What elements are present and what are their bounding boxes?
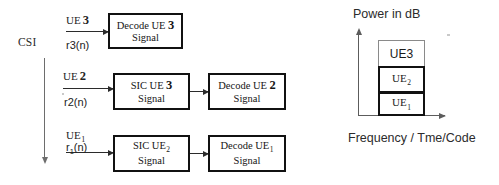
input-label-ue1-text: UE: [66, 129, 81, 141]
chart-x-axis-label: Frequency / Tme/Code: [348, 132, 476, 145]
bar-segment-ue2-label: UE2: [392, 72, 411, 87]
input-label-ue3-text: UE: [66, 14, 81, 26]
csi-downward-arrow: [44, 58, 45, 162]
signal-label-r3n: r3(n): [66, 40, 89, 51]
input-label-ue2-index: 2: [78, 69, 86, 83]
input-label-ue3-index: 3: [81, 13, 89, 27]
block-decode-ue2-line2: Signal: [234, 93, 261, 105]
csi-label: CSI: [18, 37, 37, 49]
signal-label-r2n: r2(n): [64, 97, 87, 108]
signal-label-r1n: r1(n): [66, 142, 87, 156]
block-decode-ue1-line2: Signal: [234, 155, 261, 167]
block-sic-ue3-line2: Signal: [138, 93, 165, 105]
input-label-ue2: UE2: [63, 70, 86, 83]
block-decode-ue3: Decode UE3 Signal: [108, 13, 183, 49]
chart-title: Power in dB: [353, 8, 420, 21]
block-decode-ue3-line1: Decode UE3: [117, 18, 174, 32]
bar-segment-ue2: UE2: [378, 66, 425, 93]
figure-canvas: CSI UE3 r3(n) Decode UE3 Signal UE2 r2(n…: [0, 0, 499, 185]
block-decode-ue1-line1: Decode UE1: [221, 140, 274, 155]
block-sic-ue3: SIC UE3 Signal: [113, 73, 190, 110]
block-sic-ue2-line1: SIC UE2: [133, 140, 170, 155]
block-decode-ue3-line2: Signal: [132, 32, 159, 44]
bar-segment-ue1: UE1: [378, 92, 425, 116]
block-sic-ue2: SIC UE2 Signal: [113, 135, 190, 172]
chart-y-axis: [358, 30, 359, 116]
arrow-ue3-to-decode: [66, 31, 108, 32]
block-decode-ue1: Decode UE1 Signal: [208, 135, 286, 172]
bar-segment-ue1-label: UE1: [392, 96, 411, 111]
arrow-sic-ue2-to-decode-ue1: [190, 153, 208, 154]
input-label-ue3: UE3: [66, 14, 89, 27]
stray-mark-chart: [447, 34, 450, 36]
arrow-sic-ue3-to-decode-ue2: [190, 91, 208, 92]
block-sic-ue3-line1: SIC UE3: [131, 78, 173, 92]
bar-segment-ue3-label: UE3: [390, 47, 413, 61]
stray-mark: [62, 93, 64, 95]
block-decode-ue2-line1: Decode UE2: [218, 78, 275, 92]
input-label-ue2-text: UE: [63, 70, 78, 82]
block-decode-ue2: Decode UE2 Signal: [208, 73, 286, 110]
bar-segment-ue3: UE3: [378, 40, 425, 67]
block-sic-ue2-line2: Signal: [138, 155, 165, 167]
arrow-ue2-to-sic: [63, 88, 113, 89]
